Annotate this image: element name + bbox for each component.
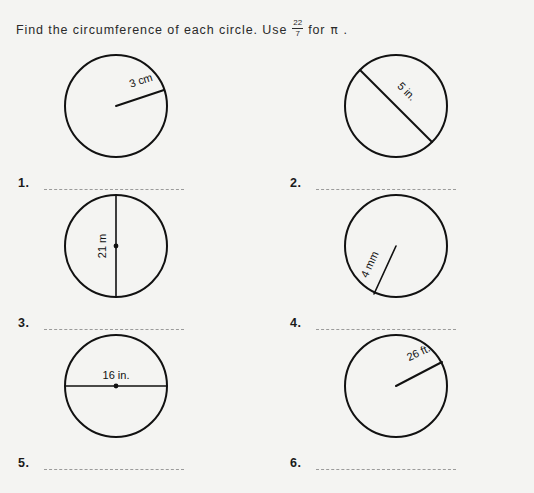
answer-row-6: 6.: [290, 456, 456, 470]
measure-label-3: 21 m: [96, 234, 108, 258]
problem-4: 4 mm 4.: [290, 188, 520, 338]
circle-figure-2: 5 in.: [338, 48, 464, 164]
instruction-period: .: [344, 23, 348, 37]
problem-number-6: 6.: [290, 456, 307, 470]
circle-diagram-radius: 4 mm: [338, 188, 464, 304]
radius-line: [396, 362, 442, 386]
measure-label-1: 3 cm: [128, 71, 154, 90]
circle-diagram-diameter: 21 m: [58, 188, 184, 304]
fraction-numerator: 22: [292, 19, 303, 27]
circle-figure-4: 4 mm: [338, 188, 464, 304]
worksheet-page: Find the circumference of each circle. U…: [0, 0, 534, 493]
radius-line: [116, 90, 164, 106]
answer-row-5: 5.: [18, 456, 184, 470]
problem-6: 26 ft. 6.: [290, 328, 520, 478]
page-instruction: Find the circumference of each circle. U…: [16, 20, 348, 39]
instruction-text-suffix: for: [308, 23, 325, 37]
problem-3: 21 m 3.: [18, 188, 248, 338]
answer-blank-6[interactable]: [316, 459, 456, 470]
measure-label-5: 16 in.: [103, 369, 130, 381]
problem-number-5: 5.: [18, 456, 35, 470]
circle-figure-1: 3 cm: [58, 48, 184, 164]
measure-label-4: 4 mm: [358, 249, 380, 279]
circle-figure-3: 21 m: [58, 188, 184, 304]
circle-diagram-radius: 3 cm: [58, 48, 184, 164]
fraction-denominator: 7: [294, 30, 300, 38]
pi-symbol: π: [330, 23, 338, 37]
circle-diagram-diameter: 5 in.: [338, 48, 464, 164]
problem-1: 3 cm 1.: [18, 48, 248, 198]
measure-label-6: 26 ft.: [405, 342, 432, 363]
center-point: [114, 384, 119, 389]
circle-diagram-diameter: 16 in.: [58, 328, 184, 444]
circle-figure-5: 16 in.: [58, 328, 184, 444]
center-point: [114, 244, 119, 249]
measure-label-2: 5 in.: [395, 80, 418, 103]
circle-figure-6: 26 ft.: [338, 328, 464, 444]
circle-diagram-radius: 26 ft.: [338, 328, 464, 444]
problem-5: 16 in. 5.: [18, 328, 248, 478]
diameter-line: [360, 70, 432, 142]
fraction-22-over-7: 22 7: [292, 19, 303, 38]
problem-2: 5 in. 2.: [290, 48, 520, 198]
answer-blank-5[interactable]: [44, 459, 184, 470]
instruction-text-prefix: Find the circumference of each circle. U…: [16, 23, 287, 37]
